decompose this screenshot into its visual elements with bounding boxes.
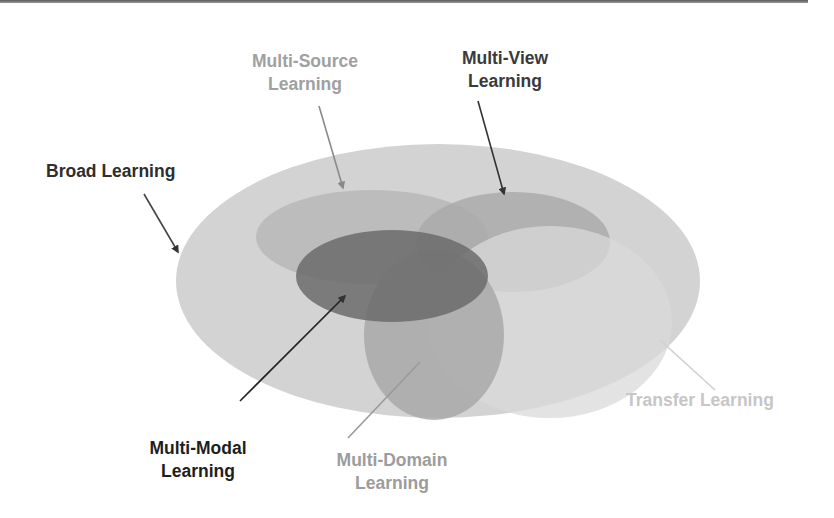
label-multi-source-line1: Multi-Source (240, 50, 370, 73)
venn-diagram (0, 0, 834, 518)
arrow-transfer (660, 340, 715, 390)
label-multi-source-line2: Learning (240, 73, 370, 96)
label-multi-modal-line2: Learning (138, 460, 258, 483)
label-transfer-learning: Transfer Learning (626, 389, 774, 412)
ellipse-multi-modal (296, 230, 488, 322)
label-multi-view-learning: Multi-View Learning (450, 47, 560, 93)
label-multi-domain-learning: Multi-Domain Learning (322, 449, 462, 495)
label-multi-modal-line1: Multi-Modal (138, 437, 258, 460)
label-broad-line1: Broad Learning (46, 160, 175, 183)
label-multi-source-learning: Multi-Source Learning (240, 50, 370, 96)
label-multi-domain-line2: Learning (322, 472, 462, 495)
arrow-broad (144, 194, 178, 252)
label-multi-domain-line1: Multi-Domain (322, 449, 462, 472)
label-transfer-line1: Transfer Learning (626, 389, 774, 412)
label-multi-modal-learning: Multi-Modal Learning (138, 437, 258, 483)
label-broad-learning: Broad Learning (46, 160, 175, 183)
label-multi-view-line2: Learning (450, 70, 560, 93)
label-multi-view-line1: Multi-View (450, 47, 560, 70)
